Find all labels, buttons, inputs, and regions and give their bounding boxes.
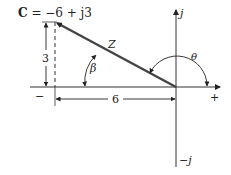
label-plus: + [210, 91, 219, 104]
label-6: 6 [112, 93, 119, 106]
theta-arc [150, 56, 207, 86]
title-equation: C = −6 + j3 [18, 6, 92, 20]
label-3: 3 [42, 52, 49, 65]
label-beta: β [89, 62, 96, 75]
label-z: Z [107, 38, 116, 51]
phasor-diagram: C = −6 + j3 j −j + − Z β θ 3 6 [0, 0, 231, 175]
label-theta: θ [191, 51, 197, 62]
label-neg-j: −j [179, 154, 192, 167]
z-vector [57, 23, 176, 87]
label-minus: − [35, 90, 44, 103]
label-j: j [177, 7, 184, 20]
